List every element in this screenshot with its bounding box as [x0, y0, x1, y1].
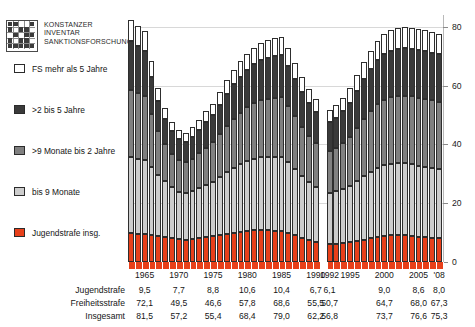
- bar-segment: [176, 160, 182, 192]
- bar-segment: [333, 191, 339, 243]
- bar-segment: [251, 159, 257, 230]
- bar-segment: [292, 116, 298, 169]
- bar-segment: [272, 38, 278, 56]
- table-cell: 10,6: [229, 285, 265, 295]
- x-axis-tick: [251, 262, 252, 269]
- bar-segment: [354, 128, 360, 181]
- legend-item-1[interactable]: >2 bis 5 Jahre: [14, 101, 134, 118]
- x-axis-label-1992: 1992: [320, 270, 339, 280]
- bar-segment: [422, 99, 428, 167]
- legend-swatch-icon: [14, 105, 25, 114]
- bar-segment: [162, 181, 168, 237]
- x-axis-tick: [285, 262, 286, 269]
- table-row-label: Insgesamt: [5, 311, 125, 321]
- bar-segment: [299, 127, 305, 176]
- bar-segment: [381, 236, 387, 262]
- bar-segment: [183, 240, 189, 262]
- bar-segment: [149, 235, 155, 262]
- bar-1988: [299, 77, 305, 262]
- bar-segment: [272, 157, 278, 231]
- bar-segment: [251, 230, 257, 262]
- bar-segment: [416, 166, 422, 237]
- table-cell: 75,3: [421, 311, 457, 321]
- bar-1982: [258, 43, 264, 262]
- bar-segment: [429, 32, 435, 53]
- bar-segment: [313, 112, 319, 143]
- table-cell: 64,7: [366, 298, 402, 308]
- y-axis-tick: [443, 144, 448, 145]
- x-axis-tick: [395, 262, 396, 269]
- bar-segment: [224, 94, 230, 126]
- bar-segment: [327, 193, 333, 244]
- bar-segment: [416, 50, 422, 98]
- bar-segment: [409, 49, 415, 97]
- legend-item-3[interactable]: bis 9 Monate: [14, 183, 134, 200]
- bar-segment: [395, 49, 401, 96]
- bar-segment: [306, 89, 312, 103]
- bar-segment: [375, 41, 381, 60]
- bar-segment: [251, 64, 257, 103]
- bar-1990: [313, 99, 319, 262]
- bar-segment: [176, 239, 182, 262]
- x-axis-tick: [155, 262, 156, 269]
- bar-segment: [347, 186, 353, 242]
- legend-item-2[interactable]: >9 Monate bis 2 Jahre: [14, 142, 134, 159]
- bar-segment: [224, 126, 230, 172]
- table-cell: 8,0: [421, 285, 457, 295]
- bar-segment: [416, 237, 422, 262]
- legend-item-0[interactable]: FS mehr als 5 Jahre: [14, 60, 134, 77]
- x-axis-tick: [347, 262, 348, 269]
- bar-segment: [368, 111, 374, 172]
- bar-segment: [149, 167, 155, 235]
- chart-plot-area: [128, 15, 443, 262]
- bar-segment: [422, 167, 428, 237]
- table-cell: 67,3: [421, 298, 457, 308]
- bar-segment: [183, 193, 189, 239]
- bar-segment: [333, 105, 339, 118]
- bar-1973: [196, 120, 202, 262]
- bar-segment: [265, 40, 271, 58]
- bar-segment: [272, 56, 278, 97]
- table-cell: 81,5: [127, 311, 163, 321]
- x-axis-tick: [368, 262, 369, 269]
- x-axis-tick: [292, 262, 293, 269]
- bar-segment: [128, 157, 134, 233]
- x-axis-tick: [190, 262, 191, 269]
- table-cell: 57,2: [161, 311, 197, 321]
- bar-segment: [238, 164, 244, 231]
- bar-segment: [388, 164, 394, 235]
- y-axis-line: [443, 15, 444, 262]
- table-cell: 68,6: [264, 298, 300, 308]
- chart-page: KONSTANZER INVENTAR SANKTIONSFORSCHUNG F…: [0, 0, 475, 327]
- bar-segment: [210, 104, 216, 116]
- bar-segment: [375, 168, 381, 237]
- x-axis-tick: [381, 262, 382, 269]
- bar-1985: [279, 37, 285, 262]
- bar-segment: [285, 106, 291, 163]
- bar-segment: [292, 63, 298, 79]
- bar-segment: [340, 98, 346, 112]
- bar-segment: [292, 169, 298, 235]
- legend-item-label: bis 9 Monate: [32, 187, 80, 197]
- bar-segment: [388, 235, 394, 262]
- bar-segment: [142, 234, 148, 262]
- x-axis-label-1985: 1985: [272, 270, 291, 280]
- bar-segment: [279, 157, 285, 231]
- bar-segment: [155, 88, 161, 101]
- bar-segment: [299, 92, 305, 127]
- bar-segment: [217, 134, 223, 177]
- bar-2003: [402, 27, 408, 262]
- legend-item-label: >9 Monate bis 2 Jahre: [32, 146, 115, 156]
- bar-segment: [210, 142, 216, 181]
- bar-segment: [429, 238, 435, 262]
- legend-item-4[interactable]: Jugendstrafe insg.: [14, 224, 134, 241]
- bar-segment: [176, 139, 182, 160]
- bar-segment: [285, 66, 291, 106]
- bar-segment: [416, 29, 422, 50]
- bar-segment: [272, 231, 278, 262]
- bar-1997: [361, 62, 367, 262]
- bar-1994: [340, 98, 346, 262]
- x-axis-tick: [258, 262, 259, 269]
- bar-1993: [333, 105, 339, 262]
- bar-segment: [258, 60, 264, 100]
